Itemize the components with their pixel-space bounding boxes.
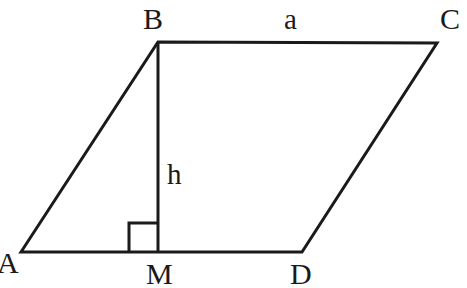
parallelogram-diagram-svg: [0, 0, 467, 288]
parallelogram-outline: [21, 42, 437, 252]
vertex-label-m: M: [146, 259, 173, 288]
vertex-label-d: D: [290, 259, 312, 288]
vertex-label-c: C: [440, 4, 460, 34]
right-angle-marker-icon: [129, 223, 158, 252]
vertex-label-a: A: [0, 248, 19, 278]
vertex-label-b: B: [143, 4, 163, 34]
height-label: h: [167, 160, 182, 189]
geometry-figure: A B C D M a h: [0, 0, 467, 288]
base-length-label: a: [284, 5, 297, 34]
